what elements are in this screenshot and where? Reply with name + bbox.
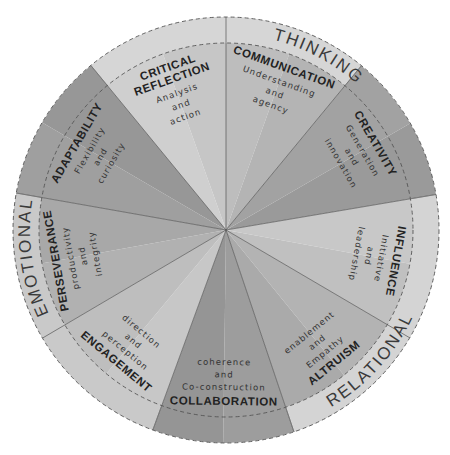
competency-wheel: THINKINGRELATIONALEMOTIONALCRITICALREFLE… — [0, 0, 450, 455]
segment-subtitle: and — [214, 369, 233, 379]
segment-subtitle: Co-construction — [182, 381, 266, 392]
segment-subtitle: coherence — [197, 357, 251, 368]
segment-title: COLLABORATION — [170, 394, 278, 407]
